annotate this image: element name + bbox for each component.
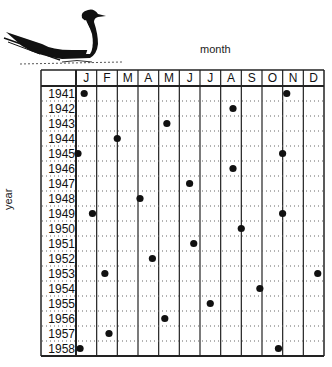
month-header-11: D — [303, 70, 324, 86]
year-label-1953: 1953 — [42, 267, 76, 281]
year-label-1957: 1957 — [42, 327, 76, 341]
year-label-1951: 1951 — [42, 237, 76, 251]
data-point — [101, 270, 108, 277]
year-label-1948: 1948 — [42, 192, 76, 206]
month-header-10: N — [283, 70, 304, 86]
year-label-1954: 1954 — [42, 282, 76, 296]
data-point — [279, 210, 286, 217]
year-label-1945: 1945 — [42, 147, 76, 161]
data-point — [229, 105, 236, 112]
data-point — [238, 225, 245, 232]
data-point — [161, 315, 168, 322]
data-point — [314, 270, 321, 277]
month-header-4: M — [159, 70, 180, 86]
data-point — [89, 210, 96, 217]
year-label-1958: 1958 — [42, 342, 76, 356]
year-label-1955: 1955 — [42, 297, 76, 311]
year-label-1952: 1952 — [42, 252, 76, 266]
data-point — [229, 165, 236, 172]
month-header-7: A — [221, 70, 242, 86]
data-point — [136, 195, 143, 202]
year-label-1956: 1956 — [42, 312, 76, 326]
year-label-1943: 1943 — [42, 117, 76, 131]
year-label-1946: 1946 — [42, 162, 76, 176]
data-point — [149, 255, 156, 262]
year-label-1942: 1942 — [42, 102, 76, 116]
month-header-0: J — [76, 70, 97, 86]
data-point — [279, 150, 286, 157]
data-point — [275, 345, 282, 352]
month-header-9: O — [262, 70, 283, 86]
data-point — [190, 240, 197, 247]
data-point — [76, 345, 83, 352]
year-label-1949: 1949 — [42, 207, 76, 221]
data-point — [186, 180, 193, 187]
month-header-5: J — [179, 70, 200, 86]
month-header-3: A — [138, 70, 159, 86]
data-point — [207, 300, 214, 307]
month-header-1: F — [97, 70, 118, 86]
data-point — [163, 120, 170, 127]
month-header-2: M — [117, 70, 138, 86]
data-point — [114, 135, 121, 142]
year-label-1944: 1944 — [42, 132, 76, 146]
month-header-8: S — [241, 70, 262, 86]
data-point — [283, 90, 290, 97]
data-point — [105, 330, 112, 337]
data-point — [256, 285, 263, 292]
year-label-1941: 1941 — [42, 87, 76, 101]
year-label-1950: 1950 — [42, 222, 76, 236]
year-label-1947: 1947 — [42, 177, 76, 191]
data-point — [81, 90, 88, 97]
month-header-6: J — [200, 70, 221, 86]
